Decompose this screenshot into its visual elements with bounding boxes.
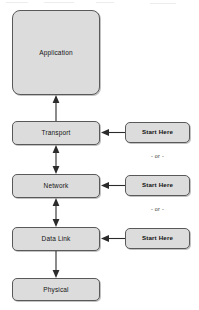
start-here-box-data-link[interactable]: Start Here: [125, 228, 190, 249]
arrow-data-link-to-physical: [53, 251, 60, 278]
arrow-start-here-to-network: [101, 182, 125, 189]
arrow-start-here-to-transport: [101, 129, 125, 136]
layer-box-network[interactable]: Network: [12, 174, 100, 198]
or-separator-2: - or -: [125, 206, 190, 212]
scan-artifact: [96, 2, 114, 3]
layer-label-application: Application: [39, 49, 72, 56]
arrow-transport-network: [53, 145, 60, 174]
layer-label-transport: Transport: [42, 129, 71, 136]
arrow-network-data-link: [53, 198, 60, 227]
start-here-label: Start Here: [142, 235, 173, 242]
layer-label-network: Network: [44, 182, 69, 189]
or-separator-1: - or -: [125, 153, 190, 159]
layer-box-application[interactable]: Application: [12, 10, 100, 95]
diagram-canvas: Application Transport Network Data Link …: [0, 0, 199, 310]
layer-box-data-link[interactable]: Data Link: [12, 227, 100, 251]
scan-artifact: [44, 2, 74, 3]
layer-label-physical: Physical: [43, 286, 68, 293]
start-here-label: Start Here: [142, 182, 173, 189]
start-here-box-transport[interactable]: Start Here: [125, 122, 190, 143]
arrow-transport-to-application: [53, 95, 60, 121]
scan-artifact: [150, 3, 176, 4]
scan-artifact: [6, 2, 28, 3]
start-here-label: Start Here: [142, 129, 173, 136]
layer-box-physical[interactable]: Physical: [12, 278, 100, 301]
start-here-box-network[interactable]: Start Here: [125, 175, 190, 196]
layer-label-data-link: Data Link: [42, 235, 71, 242]
arrow-start-here-to-data-link: [101, 235, 125, 242]
layer-box-transport[interactable]: Transport: [12, 121, 100, 145]
